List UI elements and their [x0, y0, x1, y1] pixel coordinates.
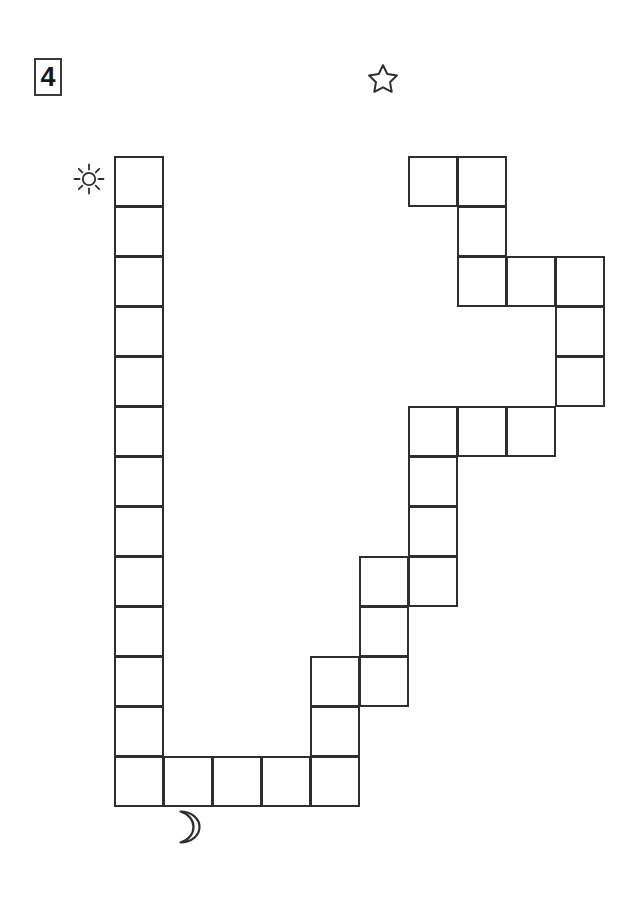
maze-cell [114, 206, 164, 257]
maze-cell [114, 406, 164, 457]
maze-cell [114, 506, 164, 557]
maze-cell [310, 656, 360, 707]
maze-cell [212, 756, 262, 807]
sun-icon [72, 162, 106, 196]
maze-cell [114, 156, 164, 207]
maze-cell [457, 156, 507, 207]
maze-cell [457, 206, 507, 257]
maze-cell [114, 756, 164, 807]
maze-grid [0, 0, 640, 900]
maze-cell [359, 556, 409, 607]
maze-cell [506, 256, 556, 307]
maze-cell [408, 156, 458, 207]
worksheet-page: 4 [0, 0, 640, 900]
maze-cell [114, 306, 164, 357]
maze-cell [457, 256, 507, 307]
maze-cell [114, 706, 164, 757]
star-icon [366, 62, 400, 96]
maze-cell [163, 756, 213, 807]
maze-cell [506, 406, 556, 457]
maze-cell [359, 656, 409, 707]
maze-cell [359, 606, 409, 657]
maze-cell [114, 556, 164, 607]
maze-cell [114, 356, 164, 407]
moon-icon [168, 808, 204, 846]
maze-cell [114, 256, 164, 307]
maze-cell [408, 556, 458, 607]
maze-cell [555, 306, 605, 357]
maze-cell [457, 406, 507, 457]
maze-cell [408, 506, 458, 557]
maze-cell [408, 456, 458, 507]
maze-cell [114, 456, 164, 507]
maze-cell [310, 706, 360, 757]
maze-cell [114, 656, 164, 707]
maze-cell [555, 356, 605, 407]
maze-cell [261, 756, 311, 807]
maze-cell [555, 256, 605, 307]
maze-cell [114, 606, 164, 657]
maze-cell [408, 406, 458, 457]
maze-cell [310, 756, 360, 807]
